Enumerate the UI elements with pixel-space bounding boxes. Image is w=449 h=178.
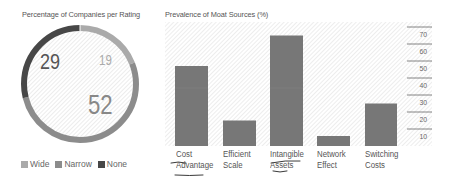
x-label-line1: Efficient [223, 149, 251, 160]
x-label-line2: Effect [317, 160, 346, 171]
underline-advantage-2 [175, 175, 203, 176]
bar-intangible-assets [270, 36, 303, 147]
bar-network-effect [317, 136, 350, 146]
y-tick-20: 20 [415, 115, 427, 124]
bar-switching-costs [365, 104, 397, 147]
bar-cost-advantage [175, 66, 208, 146]
y-tick-30: 30 [415, 98, 427, 107]
x-label-line1: Network [317, 149, 346, 160]
x-label-line1: Cost [176, 149, 213, 160]
y-tick-40: 40 [415, 81, 427, 90]
y-tick-70: 70 [415, 30, 427, 39]
y-tick-60: 60 [415, 47, 427, 56]
x-label-line2: Scale [223, 160, 251, 171]
x-label-intangible-assets: Intangible Assets [270, 149, 304, 171]
x-label-line2: Assets [270, 160, 304, 171]
x-label-switching-costs: Switching Costs [365, 149, 398, 171]
y-tick-50: 50 [415, 64, 427, 73]
x-label-line1: Switching [365, 149, 398, 160]
bar-efficient-scale [223, 121, 256, 147]
x-label-line2: Advantage [176, 160, 213, 171]
x-label-line2: Costs [365, 160, 398, 171]
underline-assets-2 [273, 171, 287, 172]
x-label-line1: Intangible [270, 149, 304, 160]
x-label-cost-advantage: Cost Advantage [176, 149, 213, 171]
x-label-efficient-scale: Efficient Scale [223, 149, 251, 171]
y-tick-10: 10 [415, 132, 427, 141]
x-label-network-effect: Network Effect [317, 149, 346, 171]
